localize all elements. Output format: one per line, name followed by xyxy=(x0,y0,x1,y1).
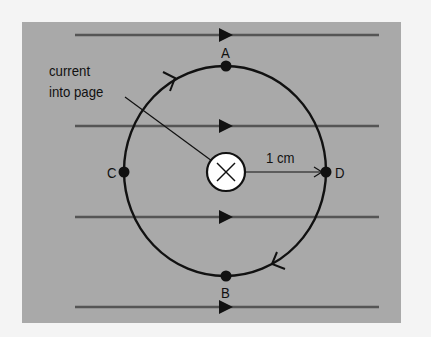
radius-label: 1 cm xyxy=(266,150,295,165)
field-arrow-icon xyxy=(219,119,233,133)
label-b: B xyxy=(221,285,230,300)
point-b-dot xyxy=(221,271,232,282)
field-arrow-icon xyxy=(219,28,233,42)
point-d-dot xyxy=(321,167,332,178)
field-arrow-icon xyxy=(219,300,233,314)
annotation-line-2: into page xyxy=(49,81,103,102)
annotation-current-into-page: current into page xyxy=(49,60,103,102)
annotation-line-1: current xyxy=(49,60,103,81)
label-c: C xyxy=(107,165,117,180)
annotation-leader-line xyxy=(125,97,212,161)
label-a: A xyxy=(221,45,230,60)
point-c-dot xyxy=(119,167,130,178)
magnetic-field-diagram xyxy=(0,0,431,337)
field-arrow-icon xyxy=(219,210,233,224)
point-a-dot xyxy=(221,61,232,72)
label-d: D xyxy=(335,165,345,180)
